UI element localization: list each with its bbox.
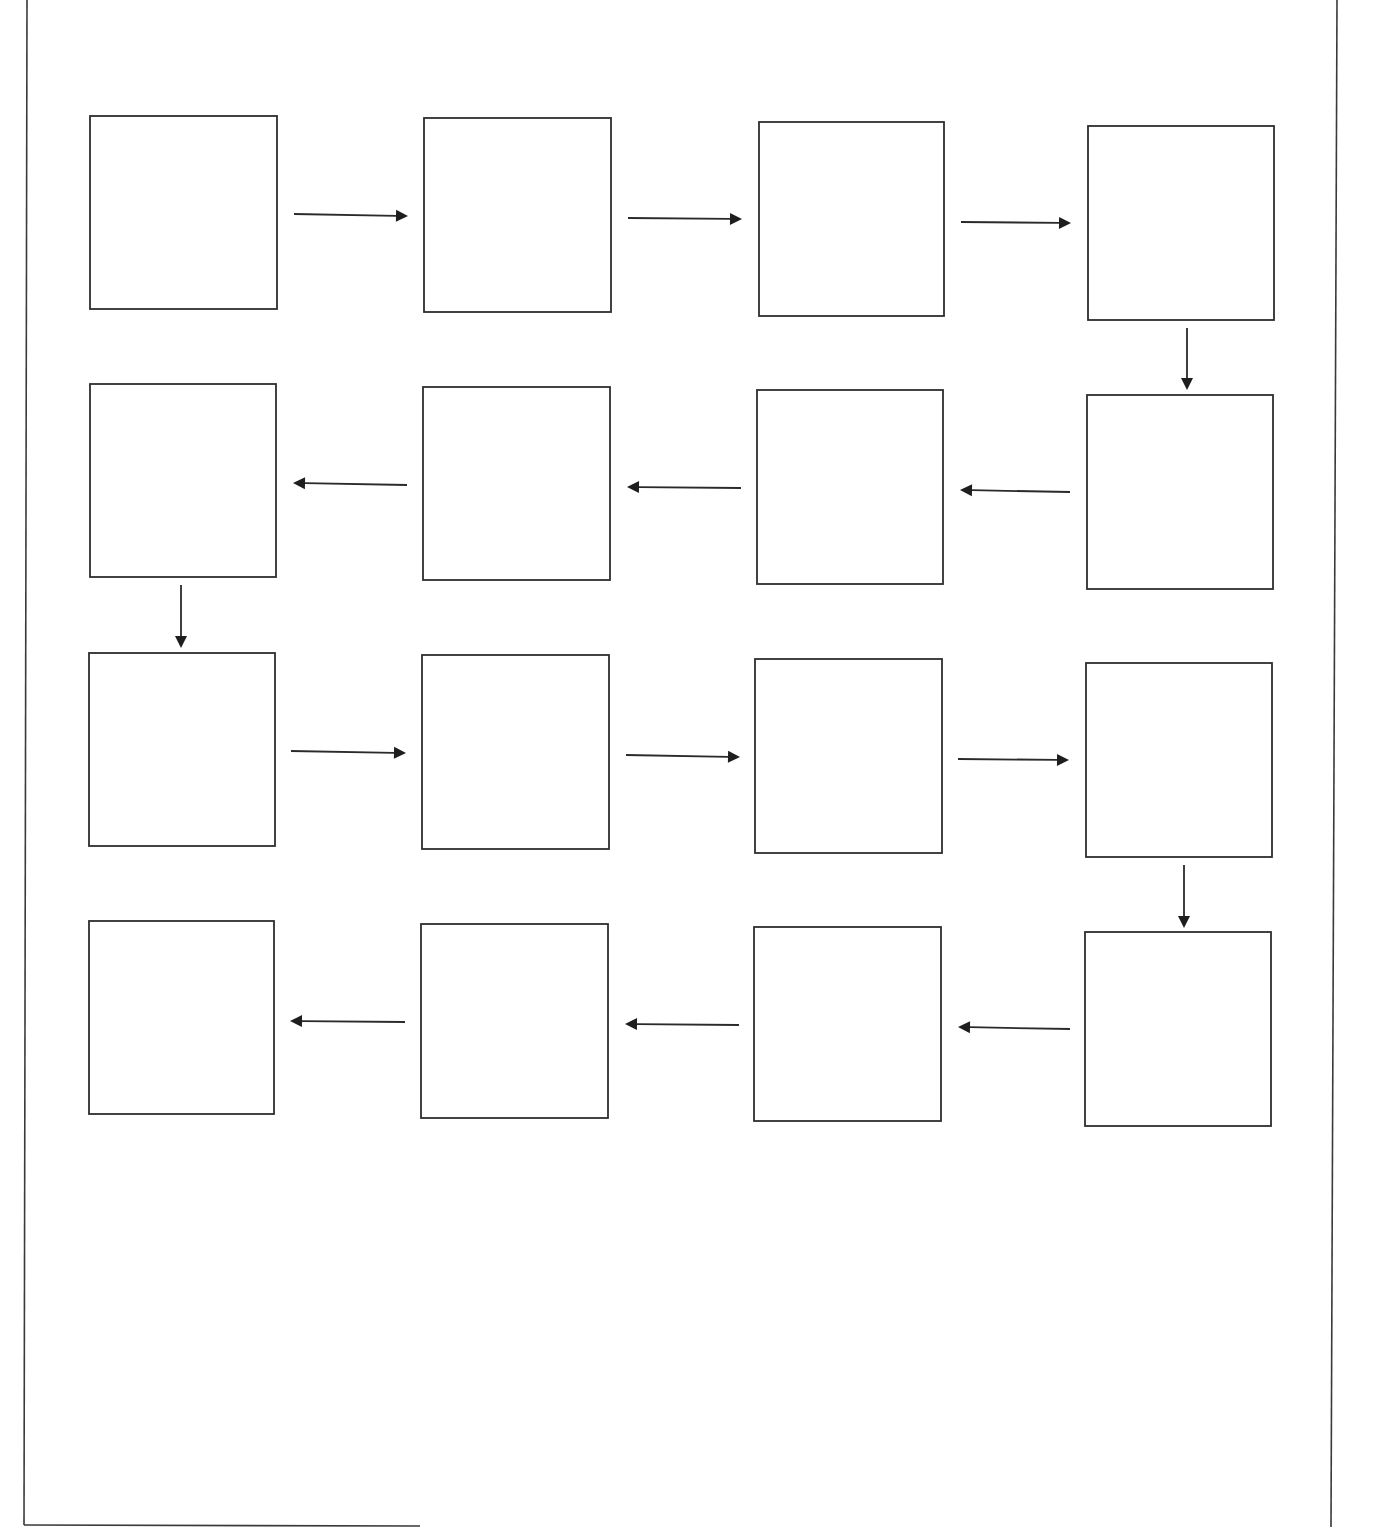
arrow-down-8-to-9 <box>175 585 187 648</box>
arrow-left-7-to-8 <box>293 477 407 489</box>
arrow-shaft <box>305 483 407 485</box>
arrow-left-13-to-14 <box>958 1021 1070 1033</box>
arrowhead-icon <box>730 213 742 225</box>
arrow-down-12-to-13 <box>1178 865 1190 928</box>
arrow-right-3-to-4 <box>961 217 1071 229</box>
arrow-down-4-to-5 <box>1181 328 1193 390</box>
arrowhead-icon <box>175 636 187 648</box>
page-border-left <box>24 0 27 1525</box>
step-box-frame <box>89 653 275 846</box>
page-border-right <box>1331 0 1337 1527</box>
arrow-right-10-to-11 <box>626 751 740 763</box>
step-box-frame <box>755 659 942 853</box>
arrow-shaft <box>961 222 1059 223</box>
arrow-left-15-to-16 <box>290 1015 405 1027</box>
arrowhead-icon <box>958 1021 970 1033</box>
step-box-frame <box>89 921 274 1114</box>
arrow-shaft <box>970 1027 1070 1029</box>
arrow-shaft <box>626 755 728 757</box>
arrow-shaft <box>302 1021 405 1022</box>
step-box-7[interactable] <box>423 387 610 580</box>
step-box-3[interactable] <box>759 122 944 316</box>
arrow-shaft <box>628 218 730 219</box>
arrowhead-icon <box>1178 916 1190 928</box>
step-box-5[interactable] <box>1087 395 1273 589</box>
arrowhead-icon <box>396 210 408 222</box>
step-box-16[interactable] <box>89 921 274 1114</box>
step-box-12[interactable] <box>1086 663 1272 857</box>
arrowhead-icon <box>1181 378 1193 390</box>
step-box-frame <box>1087 395 1273 589</box>
page-border-bottom <box>24 1525 420 1526</box>
arrowhead-icon <box>625 1018 637 1030</box>
step-box-frame <box>757 390 943 584</box>
step-box-frame <box>1088 126 1274 320</box>
arrow-shaft <box>637 1024 739 1025</box>
arrowhead-icon <box>1057 754 1069 766</box>
step-box-11[interactable] <box>755 659 942 853</box>
arrowhead-icon <box>1059 217 1071 229</box>
step-box-2[interactable] <box>424 118 611 312</box>
step-box-frame <box>423 387 610 580</box>
arrow-shaft <box>291 751 394 753</box>
arrowhead-icon <box>728 751 740 763</box>
step-box-6[interactable] <box>757 390 943 584</box>
step-box-13[interactable] <box>1085 932 1271 1126</box>
step-box-4[interactable] <box>1088 126 1274 320</box>
arrow-right-9-to-10 <box>291 747 406 759</box>
step-box-10[interactable] <box>422 655 609 849</box>
step-box-frame <box>424 118 611 312</box>
step-box-frame <box>421 924 608 1118</box>
arrow-right-11-to-12 <box>958 754 1069 766</box>
arrow-shaft <box>639 487 741 488</box>
arrow-right-1-to-2 <box>294 210 408 222</box>
arrow-left-14-to-15 <box>625 1018 739 1030</box>
arrowhead-icon <box>293 477 305 489</box>
arrowhead-icon <box>627 481 639 493</box>
step-box-14[interactable] <box>754 927 941 1121</box>
sequence-flowchart <box>0 0 1380 1527</box>
flow-arrows <box>175 210 1193 1033</box>
step-box-frame <box>90 384 276 577</box>
step-box-frame <box>759 122 944 316</box>
step-box-frame <box>422 655 609 849</box>
step-box-15[interactable] <box>421 924 608 1118</box>
arrow-shaft <box>958 759 1057 760</box>
step-box-frame <box>90 116 277 309</box>
arrow-left-5-to-6 <box>960 484 1070 496</box>
arrowhead-icon <box>960 484 972 496</box>
step-box-8[interactable] <box>90 384 276 577</box>
step-box-frame <box>1086 663 1272 857</box>
arrow-shaft <box>294 214 396 216</box>
step-box-frame <box>754 927 941 1121</box>
step-box-1[interactable] <box>90 116 277 309</box>
arrowhead-icon <box>394 747 406 759</box>
arrow-left-6-to-7 <box>627 481 741 493</box>
arrow-right-2-to-3 <box>628 213 742 225</box>
arrow-shaft <box>972 490 1070 492</box>
worksheet-page <box>0 0 1380 1527</box>
step-box-9[interactable] <box>89 653 275 846</box>
step-boxes <box>89 116 1274 1126</box>
arrowhead-icon <box>290 1015 302 1027</box>
step-box-frame <box>1085 932 1271 1126</box>
